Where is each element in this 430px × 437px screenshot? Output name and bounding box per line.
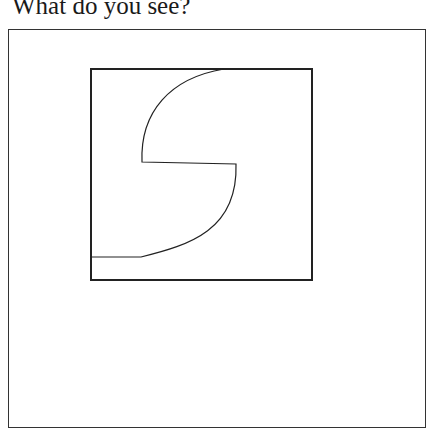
s-shape-figure [0,0,430,437]
inner-square [91,69,312,280]
s-curve [92,69,236,257]
